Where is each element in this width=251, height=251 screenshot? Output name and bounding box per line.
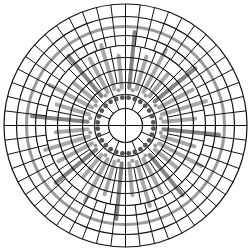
dark-dot [132, 150, 137, 155]
dark-dot [143, 143, 148, 148]
dark-dot [114, 150, 119, 155]
dark-dot [150, 114, 155, 119]
dark-dot [138, 147, 143, 152]
gray-dot [117, 88, 121, 92]
dark-dot [97, 132, 102, 137]
gray-dot [159, 131, 163, 135]
gray-dot [104, 93, 108, 97]
dark-dot [138, 99, 143, 104]
gray-dot [116, 159, 120, 163]
dark-dot [151, 126, 156, 131]
dark-dot [120, 151, 125, 156]
dark-dot [99, 138, 104, 143]
dark-dot [150, 132, 155, 137]
gray-dot [131, 88, 135, 92]
gray-dot [93, 143, 97, 147]
gray-dot [143, 154, 147, 158]
dark-dot [114, 97, 119, 102]
gray-dot [94, 103, 98, 107]
dark-dot [103, 103, 108, 108]
dark-dot [108, 99, 113, 104]
gray-dot [88, 130, 92, 134]
gray-dot [88, 116, 92, 120]
dark-dot [147, 108, 152, 113]
gray-dot [154, 104, 158, 108]
dark-dot [126, 95, 131, 100]
gray-dot [144, 94, 148, 98]
gray-dot [153, 144, 157, 148]
dark-dot [151, 120, 156, 125]
radial-grid-figure [0, 0, 251, 251]
dark-dot [120, 95, 125, 100]
dark-dot [132, 97, 137, 102]
dark-dot [147, 138, 152, 143]
dark-dot [103, 143, 108, 148]
gray-dot [130, 159, 134, 163]
gray-dot [159, 117, 163, 121]
dark-dot [95, 120, 100, 125]
dark-dot [108, 147, 113, 152]
dark-dot [95, 126, 100, 131]
dark-dot [126, 151, 131, 156]
polar-grid-diagram [0, 0, 251, 251]
dark-dot [99, 108, 104, 113]
dark-dot [97, 114, 102, 119]
gray-dot [103, 153, 107, 157]
dark-dot [143, 103, 148, 108]
